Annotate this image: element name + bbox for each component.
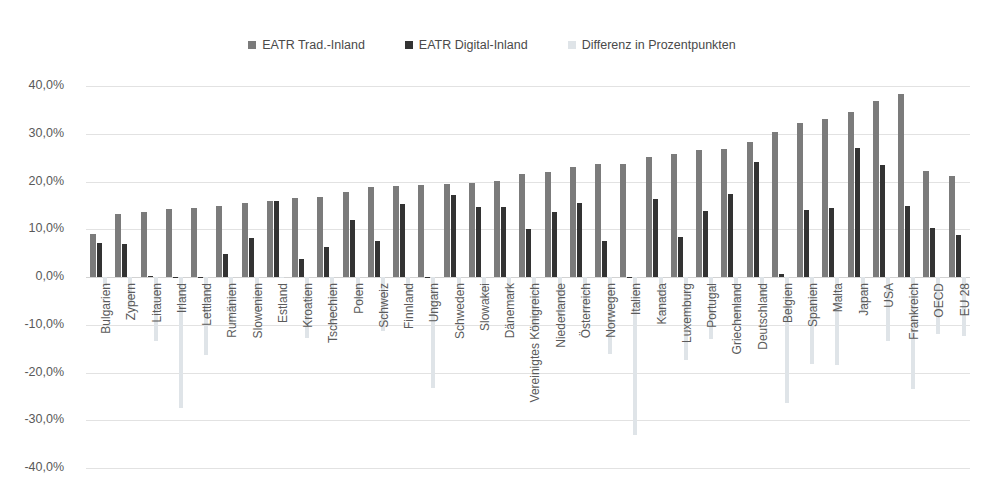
bar-digital[interactable] bbox=[956, 235, 961, 277]
category-label: Irland bbox=[175, 283, 189, 313]
bar-digital[interactable] bbox=[324, 247, 329, 277]
bar-digital[interactable] bbox=[425, 277, 430, 278]
bar-trad[interactable] bbox=[90, 234, 96, 277]
bar-trad[interactable] bbox=[343, 192, 349, 277]
bar-digital[interactable] bbox=[678, 237, 683, 277]
bar-trad[interactable] bbox=[949, 176, 955, 277]
category-label: USA bbox=[882, 283, 896, 308]
bar-trad[interactable] bbox=[646, 157, 652, 277]
bar-digital[interactable] bbox=[223, 254, 228, 277]
category-label: Slowakei bbox=[478, 283, 492, 331]
legend-swatch-icon-diff bbox=[568, 41, 576, 49]
bar-digital[interactable] bbox=[905, 206, 910, 277]
category-label: Deutschland bbox=[756, 283, 770, 350]
bar-trad[interactable] bbox=[115, 214, 121, 277]
bar-trad[interactable] bbox=[141, 212, 147, 277]
category-label: Belgien bbox=[781, 283, 795, 323]
bar-digital[interactable] bbox=[552, 212, 557, 277]
bar-digital[interactable] bbox=[754, 162, 759, 277]
bar-trad[interactable] bbox=[267, 201, 273, 277]
bar-digital[interactable] bbox=[501, 207, 506, 277]
bar-trad[interactable] bbox=[923, 171, 929, 277]
legend-label: Differenz in Prozentpunkten bbox=[582, 38, 736, 52]
bar-trad[interactable] bbox=[570, 167, 576, 277]
bar-trad[interactable] bbox=[191, 208, 197, 277]
category-label: OECD bbox=[932, 283, 946, 318]
bar-digital[interactable] bbox=[148, 276, 153, 277]
bar-digital[interactable] bbox=[653, 199, 658, 277]
category-label: Niederlande bbox=[554, 283, 568, 348]
bar-digital[interactable] bbox=[930, 228, 935, 277]
category-label: Schweiz bbox=[377, 283, 391, 328]
bar-trad[interactable] bbox=[444, 184, 450, 277]
legend-item-digital[interactable]: EATR Digital-Inland bbox=[405, 38, 528, 52]
bar-trad[interactable] bbox=[620, 164, 626, 277]
category-label: Kanada bbox=[655, 283, 669, 324]
bar-trad[interactable] bbox=[469, 183, 475, 277]
bar-digital[interactable] bbox=[804, 210, 809, 277]
y-axis-tick-label: -30,0% bbox=[0, 412, 64, 426]
bar-trad[interactable] bbox=[848, 112, 854, 277]
bar-digital[interactable] bbox=[97, 243, 102, 277]
bar-digital[interactable] bbox=[779, 274, 784, 277]
bar-digital[interactable] bbox=[122, 244, 127, 277]
bar-diff[interactable] bbox=[280, 277, 284, 278]
bar-digital[interactable] bbox=[299, 259, 304, 277]
category-label: Österreich bbox=[579, 283, 593, 338]
bar-trad[interactable] bbox=[696, 150, 702, 277]
category-label: Italien bbox=[629, 283, 643, 315]
bar-trad[interactable] bbox=[898, 94, 904, 277]
bar-digital[interactable] bbox=[173, 277, 178, 278]
category-label: Ungarn bbox=[427, 283, 441, 322]
bar-trad[interactable] bbox=[772, 132, 778, 277]
bar-trad[interactable] bbox=[822, 119, 828, 277]
category-label: Luxemburg bbox=[680, 283, 694, 343]
bar-trad[interactable] bbox=[545, 172, 551, 277]
bar-digital[interactable] bbox=[880, 165, 885, 277]
bar-digital[interactable] bbox=[350, 220, 355, 277]
category-label: Lettland bbox=[200, 283, 214, 326]
bar-digital[interactable] bbox=[829, 208, 834, 277]
bar-trad[interactable] bbox=[797, 123, 803, 277]
bar-trad[interactable] bbox=[873, 101, 879, 277]
bar-digital[interactable] bbox=[198, 277, 203, 278]
y-axis-tick-label: 40,0% bbox=[0, 78, 64, 92]
bar-digital[interactable] bbox=[627, 277, 632, 278]
bar-digital[interactable] bbox=[476, 207, 481, 277]
bar-digital[interactable] bbox=[602, 241, 607, 277]
chart-container: EATR Trad.-InlandEATR Digital-InlandDiff… bbox=[0, 0, 984, 502]
legend-item-trad[interactable]: EATR Trad.-Inland bbox=[248, 38, 365, 52]
bar-digital[interactable] bbox=[855, 148, 860, 277]
bar-trad[interactable] bbox=[494, 181, 500, 277]
bar-digital[interactable] bbox=[274, 201, 279, 277]
category-label: Estland bbox=[276, 283, 290, 323]
bar-digital[interactable] bbox=[249, 238, 254, 277]
category-label: Malta bbox=[831, 283, 845, 312]
bar-trad[interactable] bbox=[242, 203, 248, 277]
bar-trad[interactable] bbox=[721, 149, 727, 277]
bar-digital[interactable] bbox=[400, 204, 405, 277]
bar-digital[interactable] bbox=[703, 211, 708, 277]
bar-digital[interactable] bbox=[577, 203, 582, 277]
bar-trad[interactable] bbox=[519, 174, 525, 277]
bar-trad[interactable] bbox=[747, 142, 753, 277]
bar-trad[interactable] bbox=[595, 164, 601, 277]
bar-trad[interactable] bbox=[671, 154, 677, 277]
bar-trad[interactable] bbox=[418, 185, 424, 277]
category-label: Japan bbox=[857, 283, 871, 316]
bar-digital[interactable] bbox=[375, 241, 380, 277]
category-label: Finnland bbox=[402, 283, 416, 329]
y-axis-tick-label: 10,0% bbox=[0, 221, 64, 235]
bar-trad[interactable] bbox=[368, 187, 374, 277]
legend-item-diff[interactable]: Differenz in Prozentpunkten bbox=[568, 38, 736, 52]
bar-digital[interactable] bbox=[451, 195, 456, 277]
bar-trad[interactable] bbox=[166, 209, 172, 277]
bar-digital[interactable] bbox=[728, 194, 733, 277]
bar-trad[interactable] bbox=[216, 206, 222, 277]
bar-trad[interactable] bbox=[393, 186, 399, 277]
bar-trad[interactable] bbox=[292, 198, 298, 277]
category-label: Schweden bbox=[453, 283, 467, 339]
category-label: Kroatien bbox=[301, 283, 315, 328]
bar-digital[interactable] bbox=[526, 229, 531, 277]
bar-trad[interactable] bbox=[317, 197, 323, 277]
